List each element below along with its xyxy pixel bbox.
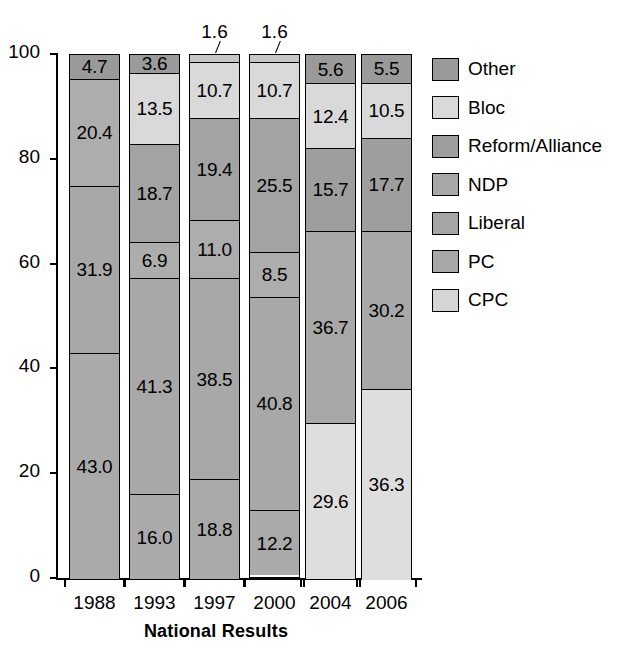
bar-segment-1988-pc[interactable]: 43.0 — [70, 354, 119, 579]
bar-segment-value-label: 10.5 — [369, 101, 405, 120]
bar-segment-1997-other[interactable]: 1.61.6 — [190, 55, 239, 63]
bar-segment-2000-bloc[interactable]: 10.7 — [250, 63, 299, 119]
y-axis-tick: 60 — [50, 263, 57, 265]
legend-item-bloc[interactable]: Bloc — [432, 89, 618, 128]
bar-segment-value-label: 5.6 — [318, 60, 344, 79]
bar-segment-value-label: 40.8 — [257, 394, 293, 413]
bar-segment-value-label: 6.9 — [142, 251, 168, 270]
bar-segment-2006-bloc[interactable]: 10.5 — [362, 84, 411, 139]
y-axis-tick: 100 — [50, 53, 57, 55]
bar-segment-2000-pc[interactable]: 12.2 — [250, 511, 299, 575]
x-axis-title: National Results — [0, 621, 432, 642]
legend-item-ndp[interactable]: NDP — [432, 166, 618, 205]
bar-segment-2000-reform-alliance[interactable]: 25.5 — [250, 119, 299, 253]
bar-segment-1993-liberal[interactable]: 41.3 — [130, 279, 179, 495]
bar-segment-2004-bloc[interactable]: 12.4 — [306, 84, 355, 149]
y-axis-tick: 0 — [50, 577, 57, 579]
bar-segment-2000-ndp[interactable]: 8.5 — [250, 253, 299, 298]
bar-segment-value-label: 17.7 — [369, 175, 405, 194]
legend-item-other[interactable]: Other — [432, 50, 618, 89]
legend-item-cpc[interactable]: CPC — [432, 281, 618, 320]
legend-item-pc[interactable]: PC — [432, 243, 618, 282]
bar-segment-1993-reform-alliance[interactable]: 18.7 — [130, 145, 179, 243]
bar-segment-2000-liberal[interactable]: 40.8 — [250, 298, 299, 512]
chart-legend: OtherBlocReform/AllianceNDPLiberalPCCPC — [432, 50, 618, 320]
legend-label: NDP — [468, 175, 508, 195]
bar-2006[interactable]: 5.510.517.730.236.3 — [361, 54, 412, 578]
legend-swatch-icon — [432, 212, 459, 235]
bar-segment-value-label: 20.4 — [77, 123, 113, 142]
x-axis-tick — [64, 578, 66, 587]
legend-label: Bloc — [468, 98, 505, 118]
bar-segment-2004-liberal[interactable]: 36.7 — [306, 232, 355, 424]
x-axis-label-2006: 2006 — [347, 592, 427, 614]
bar-segment-1988-liberal[interactable]: 31.9 — [70, 187, 119, 354]
bar-2000[interactable]: 1.61.610.725.58.540.812.2 — [249, 54, 300, 578]
y-axis-tick-label: 60 — [19, 252, 40, 272]
bar-segment-1997-reform-alliance[interactable]: 19.4 — [190, 119, 239, 221]
legend-label: Other — [468, 59, 516, 79]
bar-segment-value-label: 4.7 — [82, 57, 108, 76]
bar-1993[interactable]: 3.613.518.76.941.316.0 — [129, 54, 180, 578]
legend-label: PC — [468, 252, 494, 272]
bar-segment-2006-other[interactable]: 5.5 — [362, 55, 411, 84]
bar-segment-1988-ndp[interactable]: 20.4 — [70, 80, 119, 187]
bar-segment-1993-ndp[interactable]: 6.9 — [130, 243, 179, 279]
bar-segment-value-label: 36.3 — [369, 475, 405, 494]
bar-segment-1993-bloc[interactable]: 13.5 — [130, 74, 179, 145]
bar-segment-1997-ndp[interactable]: 11.0 — [190, 221, 239, 279]
bar-segment-2004-other[interactable]: 5.6 — [306, 55, 355, 84]
bar-segment-value-label: 16.0 — [137, 528, 173, 547]
bar-segment-2004-ndp[interactable]: 15.7 — [306, 149, 355, 231]
bar-segment-1993-pc[interactable]: 16.0 — [130, 495, 179, 579]
legend-swatch-icon — [432, 135, 459, 158]
callout-leader-line — [215, 41, 221, 53]
x-axis-tick — [415, 578, 417, 587]
bar-segment-value-label: 15.7 — [313, 180, 349, 199]
bar-1988[interactable]: 4.720.431.943.0 — [69, 54, 120, 578]
bar-segment-value-label: 19.4 — [197, 160, 233, 179]
legend-swatch-icon — [432, 250, 459, 273]
bar-2004[interactable]: 5.612.415.736.729.6 — [305, 54, 356, 578]
bar-segment-2004-cpc[interactable]: 29.6 — [306, 424, 355, 579]
bar-segment-1997-bloc[interactable]: 10.7 — [190, 63, 239, 119]
bar-segment-value-label: 18.8 — [197, 520, 233, 539]
y-axis-tick: 20 — [50, 472, 57, 474]
bar-segment-value-label: 25.5 — [257, 176, 293, 195]
plot-area: 0204060801004.720.431.943.03.613.518.76.… — [57, 54, 420, 578]
bar-segment-value-label: 10.7 — [257, 81, 293, 100]
y-axis-tick-label: 100 — [8, 42, 40, 62]
bar-segment-1997-pc[interactable]: 18.8 — [190, 480, 239, 579]
bar-segment-2006-liberal[interactable]: 30.2 — [362, 232, 411, 390]
x-axis-tick — [300, 578, 302, 587]
bar-segment-value-label: 38.5 — [197, 370, 233, 389]
x-axis-tick — [184, 578, 186, 587]
bar-segment-value-label: 30.2 — [369, 301, 405, 320]
legend-label: CPC — [468, 290, 508, 310]
bar-segment-value-label: 43.0 — [77, 457, 113, 476]
bar-segment-1997-liberal[interactable]: 38.5 — [190, 279, 239, 481]
bar-segment-1993-other[interactable]: 3.6 — [130, 55, 179, 74]
bar-segment-value-label: 10.7 — [197, 81, 233, 100]
legend-swatch-icon — [432, 289, 459, 312]
bar-segment-value-label: 12.2 — [257, 534, 293, 553]
bar-1997[interactable]: 1.61.610.719.411.038.518.8 — [189, 54, 240, 578]
legend-item-reform-alliance[interactable]: Reform/Alliance — [432, 127, 618, 166]
y-axis-tick-label: 20 — [19, 461, 40, 481]
legend-item-liberal[interactable]: Liberal — [432, 204, 618, 243]
bar-segment-value-label: 18.7 — [137, 184, 173, 203]
y-axis-tick-label: 0 — [29, 566, 40, 586]
bar-segment-value-label: 36.7 — [313, 318, 349, 337]
x-axis-tick — [303, 578, 305, 587]
legend-label: Liberal — [468, 213, 525, 233]
bar-segment-callout-label: 1.6 — [261, 22, 287, 41]
legend-swatch-icon — [432, 58, 459, 81]
bar-segment-2006-cpc[interactable]: 36.3 — [362, 390, 411, 580]
x-axis-tick — [244, 578, 246, 587]
y-axis-tick: 80 — [50, 158, 57, 160]
y-axis-tick-label: 40 — [19, 356, 40, 376]
bar-segment-1988-other[interactable]: 4.7 — [70, 55, 119, 80]
bar-segment-2006-ndp[interactable]: 17.7 — [362, 139, 411, 232]
bar-segment-2000-other[interactable]: 1.61.6 — [250, 55, 299, 63]
callout-leader-line — [275, 41, 281, 53]
